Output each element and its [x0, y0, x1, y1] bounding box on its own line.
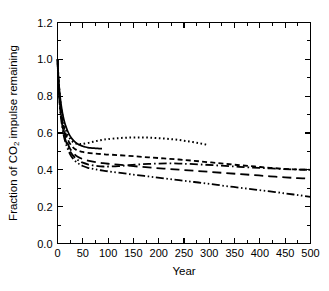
- x-axis-title: Year: [172, 265, 195, 277]
- y-tick-label: 0.2: [37, 201, 52, 213]
- x-tick-label: 450: [276, 247, 294, 259]
- y-tick-label: 1.0: [37, 53, 52, 65]
- x-tick-label: 350: [225, 247, 243, 259]
- y-tick-label: 0.6: [37, 127, 52, 139]
- x-tick-label: 0: [54, 247, 60, 259]
- y-tick-label: 1.2: [37, 17, 52, 29]
- x-tick-label: 250: [175, 247, 193, 259]
- x-tick-label: 300: [200, 247, 218, 259]
- y-tick-label: 0.0: [37, 238, 52, 250]
- y-tick-label: 0.8: [37, 90, 52, 102]
- chart-figure: 050100150200250300350400450500 0.00.20.4…: [0, 0, 329, 291]
- co2-impulse-response-chart: 050100150200250300350400450500 0.00.20.4…: [0, 0, 329, 291]
- x-tick-label: 150: [124, 247, 142, 259]
- x-tick-label: 200: [150, 247, 168, 259]
- x-tick-label: 400: [251, 247, 269, 259]
- x-tick-label: 500: [301, 247, 319, 259]
- y-tick-label: 0.4: [37, 164, 52, 176]
- x-tick-label: 50: [77, 247, 89, 259]
- x-tick-label: 100: [99, 247, 117, 259]
